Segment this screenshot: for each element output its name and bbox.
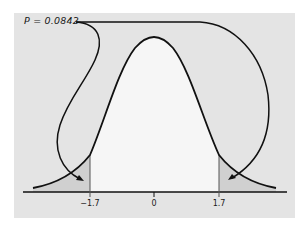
diagram-graphics (0, 0, 308, 226)
p-value-annotation: P = 0.0842 (24, 15, 79, 26)
central-region (90, 37, 219, 192)
tick-label-neg-1-7: −1.7 (80, 199, 99, 208)
tick-label-1-7: 1.7 (213, 199, 226, 208)
normal-distribution-diagram: P = 0.0842 −1.7 0 1.7 (0, 0, 308, 226)
tick-label-0: 0 (151, 199, 156, 208)
